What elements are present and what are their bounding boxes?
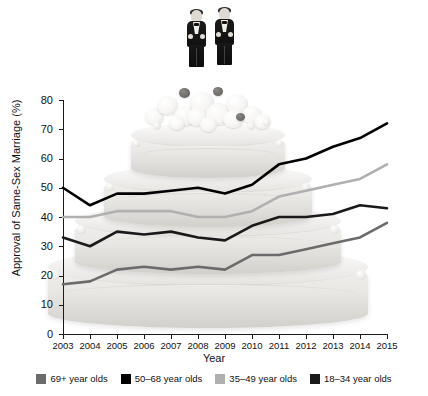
legend-item[interactable]: 18–34 year olds xyxy=(310,373,392,384)
legend-color-swatch xyxy=(36,374,46,384)
legend-item[interactable]: 35–49 year olds xyxy=(215,373,297,384)
legend-item[interactable]: 50–68 year olds xyxy=(121,373,203,384)
legend-label: 50–68 year olds xyxy=(135,373,203,384)
legend-color-swatch xyxy=(310,374,320,384)
data-series-line xyxy=(63,123,387,205)
chart-legend: 69+ year olds50–68 year olds35–49 year o… xyxy=(0,373,428,384)
legend-label: 18–34 year olds xyxy=(324,373,392,384)
legend-label: 69+ year olds xyxy=(50,373,107,384)
legend-color-swatch xyxy=(121,374,131,384)
chart-figure: Approval of Same-Sex Marriage (%) Year 0… xyxy=(0,0,428,396)
data-series-line xyxy=(63,223,387,284)
legend-label: 35–49 year olds xyxy=(229,373,297,384)
legend-color-swatch xyxy=(215,374,225,384)
chart-plot-area xyxy=(0,0,428,396)
data-series-line xyxy=(63,164,387,217)
legend-item[interactable]: 69+ year olds xyxy=(36,373,107,384)
